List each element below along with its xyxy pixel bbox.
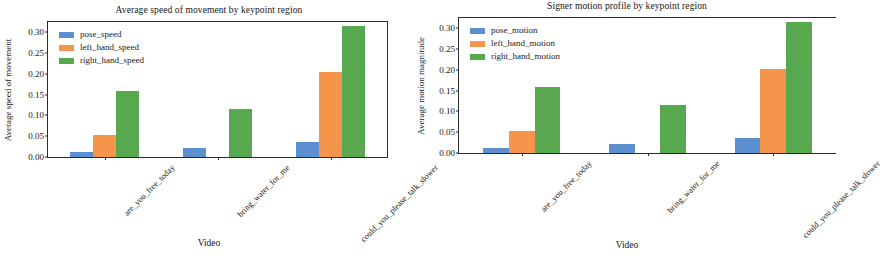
bar-right_hand_speed-could_you_please_talk_slower — [342, 26, 365, 157]
legend-swatch-icon — [470, 28, 485, 34]
y-axis-label: Average motion magnitude — [414, 17, 428, 154]
legend-label: pose_motion — [491, 25, 538, 36]
bar-right_hand_speed-are_you_free_today — [116, 91, 139, 157]
plot-area-motion: 0.000.050.100.150.200.250.30are_you_free… — [458, 17, 836, 154]
y-tick-mark — [456, 111, 459, 112]
legend-swatch-icon — [470, 54, 485, 60]
x-axis-label: Video — [0, 238, 418, 248]
bar-right_hand_speed-bring_water_for_me — [229, 109, 252, 157]
legend-label: left_hand_speed — [80, 42, 139, 53]
plot-area-speed: 0.000.050.100.150.200.250.30are_you_free… — [47, 21, 388, 158]
y-axis-label-text: Average speed of movement — [3, 38, 13, 141]
y-tick-mark — [456, 132, 459, 133]
legend-item-pose_speed: pose_speed — [59, 29, 144, 40]
legend-label: left_hand_motion — [491, 38, 555, 49]
bar-right_hand_motion-could_you_please_talk_slower — [786, 22, 812, 153]
y-tick-mark — [456, 69, 459, 70]
x-tick-mark — [105, 157, 106, 160]
legend-label: pose_speed — [80, 29, 122, 40]
x-axis-label: Video — [418, 240, 836, 250]
bar-left_hand_motion-are_you_free_today — [509, 131, 535, 153]
bar-left_hand_speed-are_you_free_today — [93, 135, 116, 157]
bar-right_hand_motion-bring_water_for_me — [660, 105, 686, 153]
chart-title: Average speed of movement by keypoint re… — [0, 5, 418, 15]
bar-left_hand_speed-could_you_please_talk_slower — [319, 72, 342, 157]
bar-pose_motion-could_you_please_talk_slower — [735, 138, 761, 153]
legend-item-pose_motion: pose_motion — [470, 25, 560, 36]
legend-swatch-icon — [470, 41, 485, 47]
y-tick-mark — [45, 157, 48, 158]
y-tick-mark — [456, 49, 459, 50]
x-tick-label: could_you_please_talk_slower — [801, 158, 882, 240]
bar-pose_speed-could_you_please_talk_slower — [296, 142, 319, 157]
x-tick-mark — [218, 157, 219, 160]
legend-label: right_hand_motion — [491, 51, 560, 62]
bar-pose_motion-bring_water_for_me — [609, 144, 635, 153]
y-tick-mark — [456, 28, 459, 29]
bar-right_hand_motion-are_you_free_today — [535, 87, 561, 153]
y-axis-label: Average speed of movement — [1, 21, 15, 158]
y-tick-mark — [45, 53, 48, 54]
legend-label: right_hand_speed — [80, 55, 144, 66]
y-tick-mark — [45, 115, 48, 116]
legend-item-left_hand_motion: left_hand_motion — [470, 38, 560, 49]
y-tick-mark — [456, 153, 459, 154]
bar-left_hand_motion-could_you_please_talk_slower — [760, 69, 786, 153]
bar-pose_speed-are_you_free_today — [70, 152, 93, 157]
x-tick-label: are_you_free_today — [121, 162, 176, 217]
y-tick-mark — [456, 90, 459, 91]
x-tick-label: are_you_free_today — [538, 158, 593, 213]
x-tick-label: bring_water_for_me — [235, 162, 291, 218]
y-tick-mark — [45, 73, 48, 74]
x-tick-mark — [522, 153, 523, 156]
y-tick-mark — [45, 32, 48, 33]
legend-item-right_hand_speed: right_hand_speed — [59, 55, 144, 66]
y-tick-mark — [45, 94, 48, 95]
legend-swatch-icon — [59, 32, 74, 38]
legend-swatch-icon — [59, 45, 74, 51]
chart-panel-speed: Average speed of movement by keypoint re… — [0, 0, 418, 265]
x-tick-mark — [648, 153, 649, 156]
legend-item-right_hand_motion: right_hand_motion — [470, 51, 560, 62]
chart-title: Signer motion profile by keypoint region — [418, 1, 836, 11]
legend-item-left_hand_speed: left_hand_speed — [59, 42, 144, 53]
legend-swatch-icon — [59, 58, 74, 64]
y-axis-label-text: Average motion magnitude — [416, 37, 426, 135]
x-tick-mark — [773, 153, 774, 156]
legend: pose_motionleft_hand_motionright_hand_mo… — [466, 23, 564, 64]
x-tick-mark — [331, 157, 332, 160]
x-tick-label: bring_water_for_me — [665, 158, 721, 214]
bar-pose_motion-are_you_free_today — [483, 148, 509, 153]
bar-pose_speed-bring_water_for_me — [183, 148, 206, 157]
y-tick-mark — [45, 136, 48, 137]
legend: pose_speedleft_hand_speedright_hand_spee… — [55, 27, 148, 68]
chart-panel-motion: Signer motion profile by keypoint region… — [418, 0, 836, 265]
